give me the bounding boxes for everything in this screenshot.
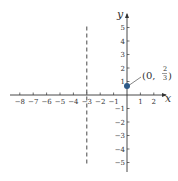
x-tick-label: 2: [152, 98, 156, 106]
x-tick-label: −7: [28, 98, 38, 106]
x-tick-label: −6: [41, 98, 52, 106]
y-axis-label: y: [116, 8, 124, 21]
y-tick-label: −5: [115, 159, 125, 167]
y-tick-label: −2: [115, 119, 125, 127]
point-label-numerator: 2: [163, 65, 167, 73]
x-axis-ticks: −8−7−6−5−4−3−2−112: [15, 93, 156, 107]
y-tick-label: −1: [115, 105, 125, 113]
x-tick-label: −5: [55, 98, 65, 106]
point-label-close-paren: ): [168, 70, 172, 81]
point-label-denominator: 3: [163, 74, 167, 82]
x-tick-label: −4: [68, 98, 79, 106]
y-tick-label: 2: [121, 65, 125, 73]
chart-canvas: −8−7−6−5−4−3−2−112 −5−4−3−2−112345 (0, 2…: [0, 0, 178, 181]
point-label-leader-line: [128, 77, 141, 86]
point-label: (0,: [142, 70, 155, 81]
y-tick-label: −3: [115, 132, 125, 140]
x-tick-label: 1: [138, 98, 142, 106]
y-tick-label: 4: [121, 38, 126, 46]
y-tick-label: −4: [115, 146, 126, 154]
y-tick-label: 5: [121, 24, 125, 32]
x-axis-label: x: [165, 92, 172, 105]
y-tick-label: 3: [121, 51, 125, 59]
y-intercept-point: [124, 83, 130, 89]
x-tick-label: −8: [15, 98, 25, 106]
x-tick-label: −2: [95, 98, 105, 106]
